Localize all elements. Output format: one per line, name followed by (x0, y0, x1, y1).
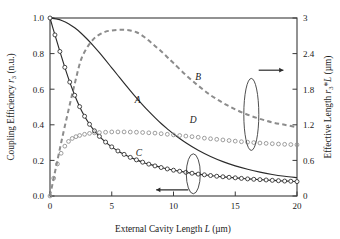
data-point (202, 173, 206, 177)
data-point (165, 167, 169, 171)
y-tick-label-right: 1.2 (303, 120, 314, 130)
y-tick-label-right: 0.6 (303, 156, 315, 166)
data-point (110, 145, 114, 149)
data-point (172, 168, 176, 172)
x-tick-label: 10 (169, 201, 179, 211)
data-point (246, 177, 250, 181)
data-point (48, 16, 52, 20)
data-point (97, 134, 101, 138)
x-tick-label: 20 (293, 201, 303, 211)
chart-figure: 051015200.00.20.40.60.81.000.61.21.82.43… (0, 0, 340, 239)
data-point (83, 114, 87, 118)
data-point (209, 174, 213, 178)
data-point (128, 155, 132, 159)
data-point (141, 160, 145, 164)
data-point (283, 179, 287, 183)
y-tick-label-left: 0.0 (33, 191, 45, 201)
data-point (221, 175, 225, 179)
x-tick-label: 0 (48, 201, 53, 211)
y-tick-label-right: 1.8 (303, 85, 315, 95)
y-tick-label-right: 2.4 (303, 49, 315, 59)
data-point (196, 172, 200, 176)
data-point (153, 164, 157, 168)
data-point (190, 171, 194, 175)
chart-svg: 051015200.00.20.40.60.81.000.61.21.82.43… (0, 0, 340, 239)
y-tick-label-right: 0 (303, 191, 308, 201)
data-point (53, 33, 57, 37)
data-point (233, 176, 237, 180)
data-point (78, 105, 82, 109)
data-point (88, 122, 92, 126)
y-tick-label-left: 0.6 (33, 85, 45, 95)
data-point (178, 169, 182, 173)
data-point (252, 177, 256, 181)
data-point (289, 179, 293, 183)
data-point (147, 162, 151, 166)
data-point (215, 174, 219, 178)
data-point (264, 178, 268, 182)
y-tick-label-right: 3 (303, 13, 308, 23)
data-point (134, 158, 138, 162)
y-axis-title-left: Coupling Efficiency r3 (n.u.) (6, 53, 17, 160)
y-axis-title-right: Effective Length r3*L (µm) (323, 56, 334, 159)
data-point (295, 180, 299, 184)
data-point (159, 166, 163, 170)
data-point (68, 80, 72, 84)
y-tick-label-left: 0.4 (33, 120, 45, 130)
data-point (258, 178, 262, 182)
data-point (239, 176, 243, 180)
curve-label-D: D (189, 115, 197, 125)
curve-label-A: A (134, 95, 141, 105)
y-tick-label-left: 1.0 (33, 13, 45, 23)
data-point (122, 152, 126, 156)
y-tick-label-left: 0.8 (33, 49, 45, 59)
data-point (116, 149, 120, 153)
data-point (227, 175, 231, 179)
curve-label-B: B (195, 72, 201, 82)
data-point (276, 179, 280, 183)
x-axis-title: External Cavity Length L (µm) (115, 224, 231, 235)
data-point (270, 178, 274, 182)
data-point (104, 140, 108, 144)
data-point (73, 93, 77, 97)
curve-label-C: C (136, 148, 143, 158)
data-point (63, 65, 67, 69)
y-tick-label-left: 0.2 (33, 156, 44, 166)
data-point (58, 49, 62, 53)
x-tick-label: 5 (110, 201, 115, 211)
x-tick-label: 15 (231, 201, 241, 211)
